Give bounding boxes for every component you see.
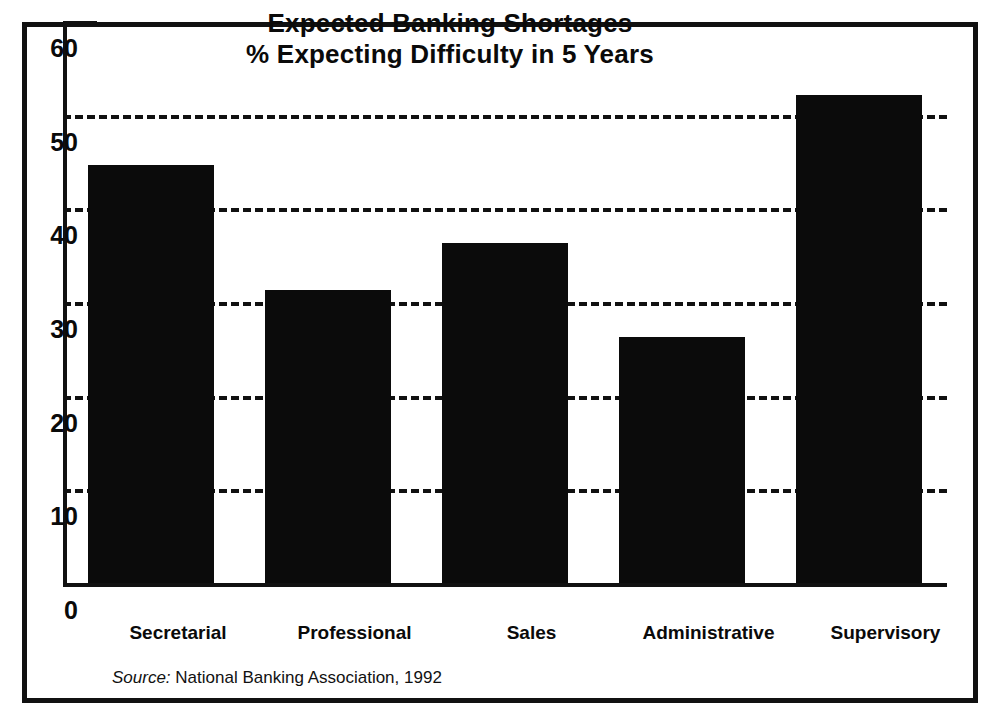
bar-sales[interactable] [442,243,568,583]
y-axis-top-tick [63,21,97,25]
x-label-supervisory: Supervisory [797,622,974,644]
source-label: Source: [112,668,171,687]
bar-administrative[interactable] [619,337,745,583]
y-tick-60: 60 [50,34,78,63]
x-axis-labels: Secretarial Professional Sales Administr… [90,622,974,644]
y-tick-0: 0 [64,596,78,625]
chart-figure: Expected Banking Shortages % Expecting D… [0,0,1004,723]
plot-area [63,21,947,583]
y-tick-10: 10 [50,502,78,531]
y-axis-labels: 60 50 40 30 20 10 0 [0,48,78,610]
bar-slot-sales [416,21,593,583]
x-label-secretarial: Secretarial [90,622,266,644]
source-text: National Banking Association, 1992 [175,668,442,687]
bar-slot-secretarial [63,21,239,583]
x-axis-baseline [63,583,947,587]
bar-secretarial[interactable] [88,165,214,583]
x-label-administrative: Administrative [620,622,797,644]
x-label-professional: Professional [266,622,443,644]
bar-slot-professional [239,21,416,583]
chart-title: Expected Banking Shortages [140,8,760,39]
y-tick-20: 20 [50,409,78,438]
y-tick-50: 50 [50,128,78,157]
x-label-sales: Sales [443,622,620,644]
bar-supervisory[interactable] [796,95,922,583]
y-tick-30: 30 [50,315,78,344]
bar-series [63,21,947,583]
y-tick-40: 40 [50,221,78,250]
bar-slot-supervisory [770,21,947,583]
chart-title-block: Expected Banking Shortages % Expecting D… [140,8,760,69]
source-note: Source: National Banking Association, 19… [112,668,442,688]
bar-professional[interactable] [265,290,391,583]
bar-slot-administrative [593,21,770,583]
chart-subtitle: % Expecting Difficulty in 5 Years [140,39,760,70]
